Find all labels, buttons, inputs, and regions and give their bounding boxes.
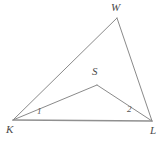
figure-lines <box>0 0 164 141</box>
geometry-figure: W S K L 1 2 <box>0 0 164 141</box>
segment-wl <box>117 18 152 121</box>
segment-sl <box>97 85 152 121</box>
angle-label-1: 1 <box>37 107 42 116</box>
segment-kw <box>13 18 117 120</box>
vertex-label-w: W <box>111 2 120 13</box>
segment-kl <box>13 120 152 121</box>
vertex-label-l: L <box>150 125 156 136</box>
angle-label-2: 2 <box>127 105 132 114</box>
vertex-label-s: S <box>92 66 98 77</box>
segment-ks <box>13 85 97 120</box>
vertex-label-k: K <box>6 124 13 135</box>
